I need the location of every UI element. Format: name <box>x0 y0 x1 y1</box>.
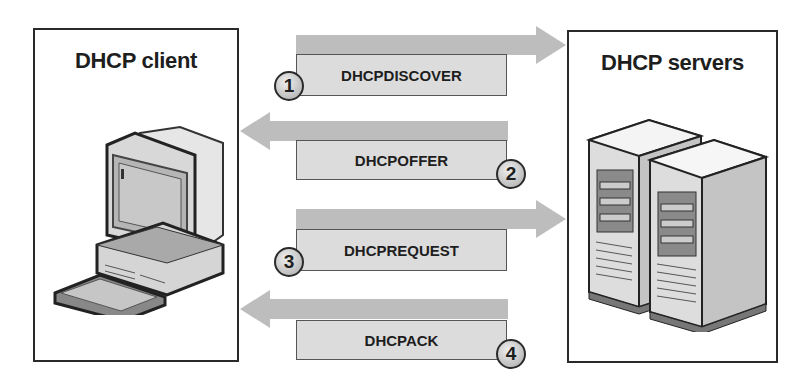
step-1-badge: 1 <box>274 71 304 101</box>
dhcp-client-box: DHCP client <box>33 28 239 362</box>
label-dhcpack: DHCPACK <box>296 320 507 360</box>
step-2-badge: 2 <box>496 159 526 189</box>
step-4-badge: 4 <box>496 339 526 369</box>
label-dhcpoffer: DHCPOFFER <box>296 140 507 180</box>
step-3-badge: 3 <box>274 247 304 277</box>
server-towers-icon <box>584 112 774 332</box>
label-dhcprequest: DHCPREQUEST <box>296 229 507 271</box>
label-dhcpdiscover: DHCPDISCOVER <box>296 54 507 96</box>
servers-title: DHCP servers <box>569 50 776 76</box>
dhcp-servers-box: DHCP servers <box>567 30 778 363</box>
desktop-computer-icon <box>45 115 235 315</box>
client-title: DHCP client <box>35 48 237 74</box>
